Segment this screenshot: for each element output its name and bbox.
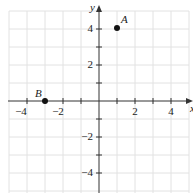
x-tick-label: 2 xyxy=(132,105,138,117)
y-axis-arrow-icon xyxy=(96,5,102,12)
point-a xyxy=(114,25,120,31)
y-tick-label: −4 xyxy=(81,166,93,178)
point-b-label: B xyxy=(35,87,42,99)
x-tick-label: −2 xyxy=(52,105,64,117)
y-axis-label: y xyxy=(89,1,95,13)
x-axis-label: x xyxy=(189,102,193,114)
y-tick-label: 4 xyxy=(88,22,94,34)
y-tick-label: −2 xyxy=(81,130,93,142)
x-tick-label: −4 xyxy=(15,105,27,117)
point-a-label: A xyxy=(120,13,128,25)
point-b xyxy=(42,98,48,104)
coordinate-plane: −4 −2 2 4 4 2 −2 −4 y x A B xyxy=(0,0,193,193)
axes xyxy=(8,9,190,193)
y-tick-label: 2 xyxy=(88,58,94,70)
x-tick-label: 4 xyxy=(168,105,174,117)
